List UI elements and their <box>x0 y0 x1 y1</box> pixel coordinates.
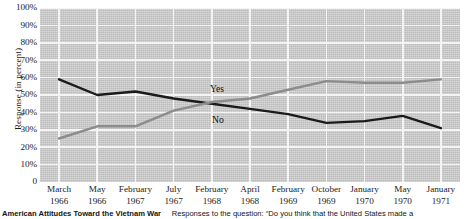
series-lines <box>40 8 460 182</box>
x-tick-label: January1971 <box>418 184 464 207</box>
y-tick-label: 70% <box>0 56 37 65</box>
figure-caption: American Attitudes Toward the Vietnam Wa… <box>2 209 466 219</box>
caption-title: American Attitudes Toward the Vietnam Wa… <box>2 209 161 218</box>
x-tick-year: 1971 <box>418 196 464 208</box>
y-tick-label: 20% <box>0 143 37 152</box>
caption-body: Responses to the question: “Do you think… <box>172 209 413 218</box>
y-tick-label: 60% <box>0 73 37 82</box>
y-tick-label: 10% <box>0 160 37 169</box>
x-axis-tick-labels: March1966May1966February1967July1967Febr… <box>0 184 466 210</box>
y-tick-label: 30% <box>0 125 37 134</box>
y-tick-label: 90% <box>0 21 37 30</box>
y-tick-label: 100% <box>0 3 37 12</box>
y-tick-label: 50% <box>0 90 37 99</box>
series-label-yes: Yes <box>210 83 224 94</box>
y-tick-label: 40% <box>0 108 37 117</box>
y-axis-tick-labels: 100%90%80%70%60%50%40%30%20%10%0 <box>0 0 37 190</box>
y-tick-label: 80% <box>0 38 37 47</box>
x-tick-month: January <box>418 184 464 196</box>
plot-area: Yes No <box>40 8 460 182</box>
series-label-no: No <box>212 114 224 125</box>
chart-figure: Response (in percent) 100%90%80%70%60%50… <box>0 0 466 219</box>
series-line-no <box>59 79 441 128</box>
